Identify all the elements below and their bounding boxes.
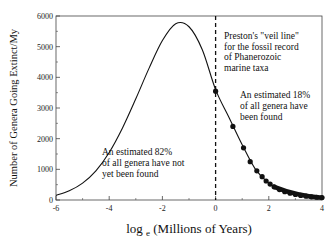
extinction-lognormal-chart: 0100020003000400050006000 -6-4-2024 Pres… bbox=[0, 0, 335, 243]
data-point bbox=[241, 145, 246, 150]
data-point bbox=[260, 174, 265, 179]
y-tick-label: 6000 bbox=[37, 12, 53, 21]
annotation-notfound: An estimated 82%of all genera have notye… bbox=[102, 147, 185, 179]
y-axis: 0100020003000400050006000 bbox=[37, 12, 60, 205]
y-tick-label: 4000 bbox=[37, 73, 53, 82]
y-tick-label: 1000 bbox=[37, 165, 53, 174]
y-tick-label: 3000 bbox=[37, 104, 53, 113]
x-tick-label: 2 bbox=[267, 204, 271, 213]
x-axis-title: log e (Millions of Years) bbox=[126, 221, 252, 238]
data-point bbox=[213, 89, 218, 94]
x-axis: -6-4-2024 bbox=[53, 196, 324, 213]
y-axis-title: Number of Genera Going Extinct/My bbox=[8, 28, 19, 187]
y-tick-label: 5000 bbox=[37, 43, 53, 52]
y-tick-label: 2000 bbox=[37, 135, 53, 144]
annotation-veil: Preston's "veil line"for the fossil reco… bbox=[224, 31, 299, 73]
annotation-found: An estimated 18%of all genera havebeen f… bbox=[240, 90, 310, 122]
data-point bbox=[230, 124, 235, 129]
x-tick-label: -2 bbox=[159, 204, 166, 213]
data-point bbox=[254, 168, 259, 173]
x-tick-label: 0 bbox=[214, 204, 218, 213]
x-tick-label: 4 bbox=[320, 204, 324, 213]
x-tick-label: -4 bbox=[106, 204, 113, 213]
x-tick-label: -6 bbox=[53, 204, 60, 213]
data-point bbox=[248, 159, 253, 164]
